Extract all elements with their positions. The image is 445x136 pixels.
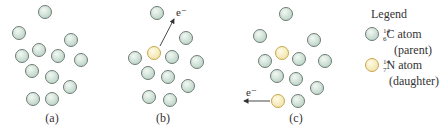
panel-c: e⁻(c) — [244, 8, 332, 126]
carbon-symbol: C — [387, 27, 395, 41]
carbon-atom-icon — [319, 55, 332, 68]
panels: (a)e⁻(b)e⁻(c) — [13, 6, 332, 126]
nitrogen-atom-icon — [276, 47, 289, 60]
electron-label: e⁻ — [246, 86, 257, 98]
nitrogen-atom-icon — [366, 59, 379, 72]
carbon-atom-icon — [13, 27, 26, 40]
carbon-atom-icon — [142, 67, 155, 80]
nitrogen-label: atom — [395, 58, 423, 72]
carbon-atom-icon — [46, 71, 59, 84]
carbon-atom-icon — [293, 53, 306, 66]
carbon-atom-icon — [164, 94, 177, 107]
carbon-atom-icon — [39, 6, 52, 19]
carbon-atom-icon — [65, 34, 78, 47]
carbon-atom-icon — [166, 51, 179, 64]
carbon-atom-icon — [46, 93, 59, 106]
carbon-atom-icon — [26, 65, 39, 78]
carbon-atom-icon — [143, 91, 156, 104]
carbon-atom-icon — [16, 50, 29, 63]
legend-title: Legend — [371, 7, 407, 21]
carbon-atom-icon — [33, 44, 46, 57]
carbon-atom-icon — [162, 71, 175, 84]
carbon-atom-icon — [308, 34, 321, 47]
carbon-atom-icon — [27, 93, 40, 106]
carbon-atom-icon — [280, 8, 293, 21]
carbon-atom-icon — [271, 70, 284, 83]
electron-arrow-icon — [160, 19, 174, 46]
panel-label: (a) — [45, 111, 58, 125]
carbon-atom-icon — [129, 52, 142, 65]
nitrogen-symbol: N — [387, 58, 396, 72]
radioactive-decay-diagram: (a)e⁻(b)e⁻(c) Legend 146C atom (parent) … — [0, 0, 445, 136]
carbon-atom-icon — [290, 73, 303, 86]
panel-label: (b) — [156, 111, 170, 125]
svg-text:146C atom: 146C atom — [383, 27, 422, 43]
carbon-atom-icon — [311, 82, 324, 95]
carbon-role: (parent) — [394, 43, 432, 57]
carbon-atom-icon — [180, 32, 193, 45]
panel-a: (a) — [13, 6, 88, 126]
carbon-atom-icon — [292, 95, 305, 108]
nitrogen-role: (daughter) — [389, 74, 439, 88]
carbon-label: atom — [395, 27, 423, 41]
panel-label: (c) — [289, 111, 302, 125]
legend: Legend 146C atom (parent) 147N atom (dau… — [366, 7, 439, 88]
carbon-atom-icon — [182, 80, 195, 93]
nitrogen-atom-icon — [272, 95, 285, 108]
carbon-atom-icon — [151, 7, 164, 20]
carbon-atom-icon — [366, 28, 379, 41]
carbon-atom-icon — [259, 55, 272, 68]
carbon-atom-icon — [191, 56, 204, 69]
electron-label: e⁻ — [176, 6, 187, 18]
legend-item-nitrogen: 147N atom (daughter) — [366, 58, 439, 88]
carbon-atom-icon — [52, 50, 65, 63]
svg-text:147N atom: 147N atom — [383, 58, 423, 74]
panel-b: e⁻(b) — [129, 6, 204, 125]
carbon-atom-icon — [64, 81, 77, 94]
legend-item-carbon: 146C atom (parent) — [366, 27, 432, 57]
carbon-atom-icon — [254, 30, 267, 43]
carbon-atom-icon — [75, 54, 88, 67]
nitrogen-atom-icon — [148, 47, 161, 60]
